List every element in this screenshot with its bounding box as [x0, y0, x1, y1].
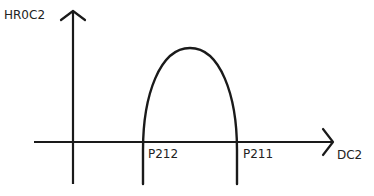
point-label-p212: P212	[148, 147, 178, 161]
diagram-canvas	[0, 0, 374, 196]
y-axis	[61, 11, 85, 184]
y-axis-label: HR0C2	[4, 8, 45, 22]
point-label-p211: P211	[243, 147, 273, 161]
x-axis	[34, 129, 333, 155]
arch-curve	[143, 48, 237, 184]
x-axis-label: DC2	[337, 148, 362, 162]
